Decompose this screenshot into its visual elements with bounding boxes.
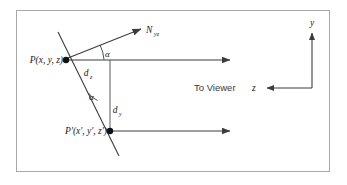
point-p-marker <box>63 57 69 63</box>
normal-vector-label: N <box>145 25 153 35</box>
point-p-prime-marker <box>107 128 113 134</box>
distance-z-subscript-label: z <box>89 74 93 80</box>
normal-vector-subscript-label: yz <box>153 31 160 37</box>
axis-y-label: y <box>309 18 315 28</box>
to-viewer-label: To Viewer <box>194 82 236 93</box>
upper-angle-arc <box>100 45 104 60</box>
distance-z-label: d <box>84 68 89 78</box>
distance-y-label: d <box>113 105 118 115</box>
point-p-label: P(x, y, z) <box>29 55 63 66</box>
upper-alpha-label: α <box>105 49 110 59</box>
axis-z-label: z <box>251 83 256 93</box>
distance-y-subscript-label: y <box>118 111 122 117</box>
point-p-prime-label: P'(x', y', z') <box>64 126 107 137</box>
figure-container: P(x, y, z) P'(x', y', z') N yz d z d y α… <box>0 0 347 185</box>
figure-frame <box>17 11 330 172</box>
geometry-diagram: P(x, y, z) P'(x', y', z') N yz d z d y α… <box>0 0 347 185</box>
lower-alpha-label: α <box>89 92 94 102</box>
